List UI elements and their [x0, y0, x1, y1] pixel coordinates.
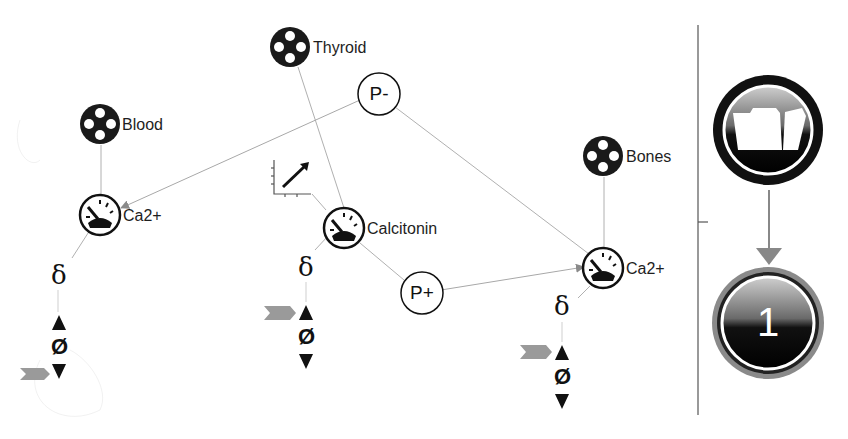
degradation-delta-1[interactable]: δ — [51, 262, 67, 288]
process-label-p-minus[interactable]: P- — [362, 84, 396, 103]
line-chart-icon — [271, 160, 311, 197]
species-label-ca-bones[interactable]: Ca2+ — [626, 261, 665, 277]
edge-pplus-cabones — [441, 267, 584, 290]
species-label-calcitonin[interactable]: Calcitonin — [367, 221, 437, 237]
gray-chevron-icon-1 — [20, 368, 50, 380]
edge-plot-calcitonin — [312, 194, 326, 210]
compartment-icon-blood — [80, 104, 120, 144]
folder-icon — [733, 108, 782, 150]
edge-ca-delta-3 — [578, 286, 590, 298]
gray-chevron-icon-3 — [520, 345, 552, 359]
compartment-label-blood: Blood — [122, 117, 163, 133]
species-label-ca-blood[interactable]: Ca2+ — [123, 208, 162, 224]
step-number: 1 — [748, 302, 788, 342]
degradation-delta-2[interactable]: δ — [298, 254, 314, 280]
gauge-icon-ca-bones — [583, 248, 623, 288]
gray-chevron-icon-2 — [264, 306, 296, 320]
degradation-delta-3[interactable]: δ — [554, 293, 570, 319]
edge-ca-delta-1 — [72, 230, 90, 258]
sink-symbol-2: Ø — [298, 326, 315, 348]
process-label-p-plus[interactable]: P+ — [405, 283, 439, 302]
sink-symbol-1: Ø — [51, 336, 68, 358]
edge-thyroid-calcitonin — [298, 67, 344, 208]
folder-button — [713, 75, 823, 185]
gauge-icon-calcitonin — [324, 208, 364, 248]
compartment-label-thyroid: Thyroid — [313, 40, 366, 56]
compartment-icon-thyroid — [270, 27, 310, 67]
compartment-label-bones: Bones — [626, 149, 671, 165]
compartment-icon-bones — [583, 136, 623, 176]
flow-arrowhead-icon — [756, 248, 782, 265]
gauge-icon-ca-blood — [80, 195, 120, 235]
sink-symbol-3: Ø — [554, 366, 571, 388]
edge-calcitonin-pplus — [360, 243, 404, 280]
